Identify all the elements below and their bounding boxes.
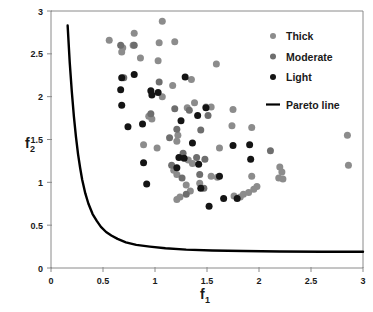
data-point xyxy=(220,195,227,202)
data-point xyxy=(139,121,146,128)
legend-marker-swatch xyxy=(270,33,276,39)
data-point xyxy=(189,139,196,146)
x-tick-label: 2.5 xyxy=(305,276,318,286)
legend: ThickModerateLightPareto line xyxy=(266,30,340,111)
data-point xyxy=(118,102,125,109)
data-point xyxy=(179,175,186,182)
y-tick-label: 2 xyxy=(38,92,43,102)
data-point xyxy=(195,161,202,168)
legend-item-moderate: Moderate xyxy=(270,51,333,63)
y-tick-label: 0.5 xyxy=(30,221,43,231)
data-point xyxy=(183,191,190,198)
data-point xyxy=(216,173,223,180)
data-point xyxy=(197,185,204,192)
x-tick-label: 1 xyxy=(152,276,157,286)
y-axis-title-sub: 2 xyxy=(30,144,35,154)
data-point xyxy=(143,181,150,188)
data-point xyxy=(267,147,274,154)
data-point xyxy=(131,30,138,37)
data-point xyxy=(154,145,161,152)
data-point xyxy=(279,175,286,182)
legend-label: Thick xyxy=(286,30,314,42)
series-light xyxy=(117,71,254,210)
data-points xyxy=(106,18,352,210)
data-point xyxy=(155,57,162,64)
legend-label: Pareto line xyxy=(286,99,340,111)
data-point xyxy=(156,79,163,86)
x-axis-title-sub: 1 xyxy=(205,295,210,305)
data-point xyxy=(156,39,163,46)
data-point xyxy=(201,156,208,163)
data-point xyxy=(213,61,220,68)
y-tick-label: 3 xyxy=(38,7,43,17)
legend-item-thick: Thick xyxy=(270,30,314,42)
legend-item-pareto-line: Pareto line xyxy=(266,99,340,111)
x-tick-label: 3 xyxy=(360,276,365,286)
x-tick-label: 0.5 xyxy=(97,276,110,286)
data-point xyxy=(155,89,162,96)
data-point xyxy=(197,127,204,134)
data-point xyxy=(183,181,190,188)
legend-label: Light xyxy=(286,71,312,83)
x-tick-label: 2 xyxy=(256,276,261,286)
data-point xyxy=(228,122,235,129)
data-point xyxy=(182,73,189,80)
y-tick-label: 0 xyxy=(38,264,43,274)
data-point xyxy=(173,196,180,203)
data-point xyxy=(186,107,193,114)
data-point xyxy=(147,110,154,117)
data-point xyxy=(171,105,178,112)
data-point xyxy=(196,171,203,178)
data-point xyxy=(159,18,166,25)
data-point xyxy=(173,126,180,133)
data-point xyxy=(193,154,200,161)
data-point xyxy=(230,106,237,113)
legend-marker-swatch xyxy=(270,54,276,60)
data-point xyxy=(234,195,241,202)
legend-item-light: Light xyxy=(270,71,312,83)
data-point xyxy=(205,112,212,119)
data-point xyxy=(118,74,125,81)
y-tick-label: 2.5 xyxy=(30,49,43,59)
data-point xyxy=(206,203,213,210)
tick-labels: 00.511.522.5300.511.522.53 xyxy=(30,7,365,287)
data-point xyxy=(216,145,223,152)
data-point xyxy=(173,164,180,171)
data-point xyxy=(246,141,253,148)
x-tick-label: 1.5 xyxy=(201,276,214,286)
data-point xyxy=(230,142,237,149)
x-tick-label: 0 xyxy=(48,276,53,286)
data-point xyxy=(173,138,180,145)
data-point xyxy=(117,86,124,93)
data-point xyxy=(124,123,131,130)
data-point xyxy=(188,76,195,83)
data-point xyxy=(117,42,124,49)
data-point xyxy=(191,99,198,106)
legend-label: Moderate xyxy=(286,51,333,63)
y-tick-label: 1 xyxy=(38,178,43,188)
data-point xyxy=(245,189,252,196)
data-point xyxy=(169,82,176,89)
data-point xyxy=(248,124,255,131)
data-point xyxy=(248,173,255,180)
data-point xyxy=(140,141,147,148)
data-point xyxy=(189,160,196,167)
legend-marker-swatch xyxy=(270,74,276,80)
data-point xyxy=(181,155,188,162)
data-point xyxy=(118,49,125,56)
data-point xyxy=(208,173,215,180)
data-point xyxy=(178,117,185,124)
scatter-chart: 00.511.522.5300.511.522.53 ThickModerate… xyxy=(0,0,373,312)
data-point xyxy=(166,134,173,141)
data-point xyxy=(194,112,201,119)
data-point xyxy=(247,156,254,163)
data-point xyxy=(202,104,209,111)
data-point xyxy=(345,162,352,169)
data-point xyxy=(171,38,178,45)
data-point xyxy=(174,132,181,139)
data-point xyxy=(137,55,144,62)
data-point xyxy=(276,163,283,170)
data-point xyxy=(148,91,155,98)
data-point xyxy=(131,42,138,49)
chart-canvas: 00.511.522.5300.511.522.53 ThickModerate… xyxy=(0,0,373,312)
